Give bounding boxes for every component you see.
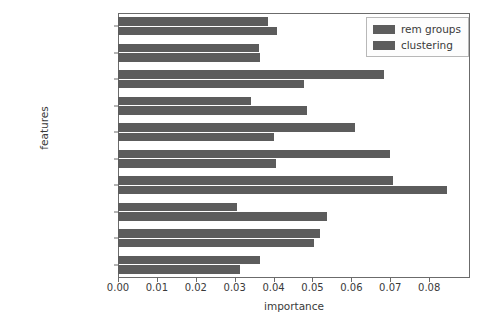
y-tick-mark	[114, 264, 118, 265]
y-tick-mark	[114, 132, 118, 133]
x-tick-label: 0.07	[379, 282, 401, 293]
bar-rem-groups-D-SAOS	[118, 70, 384, 79]
bar-rem-groups-D-RONCOPATIA	[118, 97, 251, 106]
y-tick-mark	[114, 26, 118, 27]
y-tick-mark	[114, 238, 118, 239]
bar-rem-groups-S-F	[118, 44, 259, 53]
legend-swatch-icon	[373, 25, 395, 34]
chart-figure: features S_MS_FD_SAOSD_RONCOPATIAD_D. Af…	[0, 0, 483, 327]
bar-clustering-D-D-Afectiva	[118, 133, 274, 142]
bar-clustering-M-bzd	[118, 212, 327, 221]
y-tick-mark	[114, 185, 118, 186]
x-axis-label: importance	[118, 300, 470, 312]
bar-rem-groups-S-M	[118, 17, 268, 26]
legend-item-clustering: clustering	[373, 39, 461, 51]
x-tick-label: 0.00	[107, 282, 129, 293]
x-tick-label: 0.06	[340, 282, 362, 293]
bar-rem-groups-M-bzd	[118, 203, 237, 212]
legend-swatch-icon	[373, 41, 395, 50]
bar-rem-groups-D-D-Afectiva	[118, 123, 355, 132]
chart-legend: rem groups clustering	[366, 17, 469, 57]
legend-item-rem-groups: rem groups	[373, 23, 461, 35]
bar-rem-groups-M-ssri	[118, 176, 393, 185]
bar-rem-groups-P-depression	[118, 229, 320, 238]
y-tick-mark	[114, 211, 118, 212]
y-tick-mark	[114, 79, 118, 80]
bar-clustering-D-RONCOPATIA	[118, 106, 307, 115]
legend-label: clustering	[401, 39, 453, 51]
bar-clustering-S-M	[118, 27, 277, 36]
x-tick-label: 0.01	[146, 282, 168, 293]
x-tick-label: 0.02	[185, 282, 207, 293]
bar-clustering-M-trazodona	[118, 159, 276, 168]
y-tick-mark	[114, 158, 118, 159]
bar-rem-groups-M-trazodona	[118, 150, 390, 159]
x-tick-label: 0.04	[262, 282, 284, 293]
bar-clustering-P-epilepsy	[118, 265, 240, 274]
bar-clustering-M-ssri	[118, 186, 447, 195]
legend-label: rem groups	[401, 23, 461, 35]
x-tick-label: 0.05	[301, 282, 323, 293]
y-tick-mark	[114, 52, 118, 53]
x-tick-label: 0.03	[224, 282, 246, 293]
y-tick-mark	[114, 105, 118, 106]
bar-rem-groups-P-epilepsy	[118, 256, 260, 265]
bar-clustering-P-depression	[118, 239, 314, 248]
y-axis-label: features	[38, 78, 50, 178]
x-tick-label: 0.08	[418, 282, 440, 293]
bar-clustering-D-SAOS	[118, 80, 304, 89]
bar-clustering-S-F	[118, 53, 260, 62]
